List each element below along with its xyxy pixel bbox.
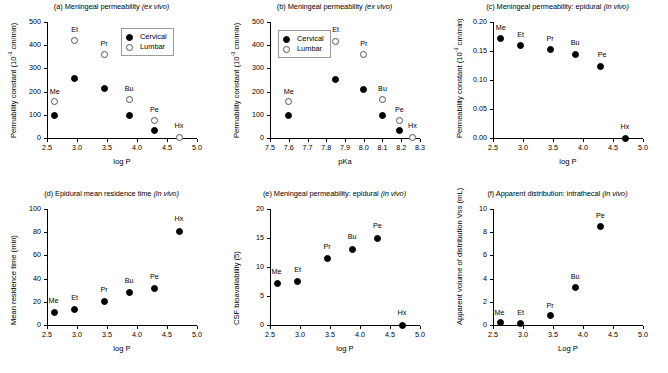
panel-title-text: (d) Epidural mean residence time: [44, 189, 153, 198]
panel-title-text: (c) Meningeal permeability: epidural: [486, 2, 603, 11]
y-tick: [267, 68, 270, 69]
x-tick-label: 4.0: [346, 331, 374, 338]
y-tick-label: 100: [0, 111, 41, 118]
panel-title-a: (a) Meningeal permeability (ex vivo): [0, 2, 223, 11]
x-tick-label: 2.5: [33, 144, 61, 151]
legend-entry-lumbar: Lumbar: [126, 42, 167, 52]
y-tick: [490, 109, 493, 110]
x-tick-label: 4.5: [599, 331, 627, 338]
x-tick-label: 4.5: [376, 331, 404, 338]
y-axis-title-text: Permability constant (10: [232, 57, 241, 138]
y-tick-label: 0.00: [446, 134, 487, 141]
data-point-lumbar-pr: [101, 51, 108, 58]
y-tick-label: 0: [223, 134, 264, 141]
point-label-bu: Bu: [378, 85, 387, 92]
point-label-pr: Pr: [100, 40, 107, 47]
panel-title-italic: (in vivo): [381, 189, 406, 198]
y-tick: [44, 279, 47, 280]
data-point-lumbar-pe: [151, 117, 158, 124]
data-point-vss-pr: [547, 312, 554, 319]
x-tick: [270, 326, 271, 329]
point-label-pe: Pe: [150, 273, 159, 280]
y-tick: [490, 302, 493, 303]
x-tick: [137, 326, 138, 329]
y-tick-label: 100: [0, 205, 41, 212]
x-tick: [197, 326, 198, 329]
x-tick: [308, 139, 309, 142]
y-tick: [44, 115, 47, 116]
chart-panel-f: (f) Apparent distribution: intrathecal (…: [446, 187, 668, 373]
y-tick-label: 0.15: [446, 47, 487, 54]
x-tick: [47, 326, 48, 329]
x-tick-label: 5.0: [406, 331, 434, 338]
point-label-pr: Pr: [546, 302, 553, 309]
y-axis-title: Mean residence time (min): [9, 235, 18, 325]
x-tick: [523, 326, 524, 329]
data-point-lumbar-pr: [360, 51, 367, 58]
x-tick: [493, 326, 494, 329]
data-point-cervical-me: [51, 112, 58, 119]
y-axis-title-suffix: cm/min): [232, 23, 241, 52]
x-tick-label: 5.0: [183, 144, 211, 151]
point-label-et: Et: [517, 309, 524, 316]
point-label-me: Me: [49, 297, 59, 304]
x-tick: [390, 326, 391, 329]
legend-marker-open-circle-icon: [126, 44, 133, 51]
x-tick: [613, 139, 614, 142]
x-tick-label: 4.5: [599, 144, 627, 151]
y-tick: [44, 302, 47, 303]
x-tick: [553, 326, 554, 329]
y-tick-label: 0.10: [446, 76, 487, 83]
point-label-et: Et: [294, 266, 301, 273]
data-point-epidural-mrt-pe: [151, 285, 158, 292]
x-tick-label: 3.5: [316, 331, 344, 338]
y-tick: [44, 22, 47, 23]
y-tick: [490, 80, 493, 81]
data-point-lumbar-et: [332, 38, 339, 45]
point-label-et: Et: [517, 31, 524, 38]
y-tick-label: 6: [446, 251, 487, 258]
x-tick: [583, 139, 584, 142]
x-tick: [167, 326, 168, 329]
point-label-me: Me: [496, 24, 506, 31]
x-tick: [137, 139, 138, 142]
x-tick: [326, 139, 327, 142]
legend-entry-cervical: Cervical: [283, 34, 324, 44]
x-tick-label: 3.5: [93, 331, 121, 338]
x-tick-label: 4.5: [153, 331, 181, 338]
data-point-cervical-pr: [101, 85, 108, 92]
x-axis-line: [493, 325, 643, 326]
chart-panel-c: (c) Meningeal permeability: epidural (in…: [446, 0, 668, 186]
point-label-pe: Pe: [598, 51, 607, 58]
point-label-hx: Hx: [408, 122, 417, 129]
y-tick-label: 200: [223, 88, 264, 95]
y-tick: [267, 115, 270, 116]
y-tick-label: 300: [0, 64, 41, 71]
x-axis-line: [47, 138, 197, 139]
data-point-lumbar-pe: [396, 117, 403, 124]
y-tick: [267, 267, 270, 268]
legend-entry-label: Lumbar: [140, 43, 165, 50]
y-tick-label: 40: [0, 275, 41, 282]
x-axis-title: log P: [493, 157, 643, 166]
figure-panel-grid: (a) Meningeal permeability (ex vivo)0100…: [0, 0, 668, 373]
data-point-epidural-mrt-hx: [176, 228, 183, 235]
point-label-pe: Pe: [395, 106, 404, 113]
y-tick-label: 500: [0, 18, 41, 25]
legend-entry-label: Cervical: [140, 33, 167, 40]
x-tick: [47, 139, 48, 142]
y-tick-label: 5: [223, 292, 264, 299]
x-tick: [493, 139, 494, 142]
y-tick: [267, 296, 270, 297]
y-tick: [44, 232, 47, 233]
y-tick: [267, 209, 270, 210]
x-tick-label: 2.5: [33, 331, 61, 338]
y-tick-label: 4: [446, 275, 487, 282]
data-point-vss-et: [517, 320, 524, 327]
y-axis-title-suffix: cm/min): [455, 18, 464, 47]
x-tick: [345, 139, 346, 142]
y-axis-line: [47, 22, 48, 138]
data-point-lumbar-me: [285, 98, 292, 105]
data-point-cervical-pe: [396, 127, 403, 134]
y-axis-title-text: Mean residence time (min): [9, 235, 18, 325]
